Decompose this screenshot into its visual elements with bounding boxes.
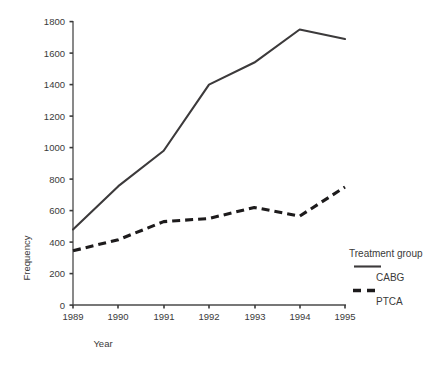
legend-title: Treatment group xyxy=(349,248,423,259)
y-tick-label-1400: 1400 xyxy=(44,79,65,90)
x-tick-label-1989: 1989 xyxy=(62,311,83,322)
y-axis-title: Frequency xyxy=(21,235,32,280)
x-tick-label-1993: 1993 xyxy=(244,311,265,322)
y-tick-label-1200: 1200 xyxy=(44,111,65,122)
x-tick-label-1994: 1994 xyxy=(289,311,310,322)
x-tick-label-1992: 1992 xyxy=(198,311,219,322)
y-tick-label-1000: 1000 xyxy=(44,142,65,153)
y-tick-label-0: 0 xyxy=(60,300,65,311)
x-axis-title: Year xyxy=(93,338,112,349)
y-tick-label-200: 200 xyxy=(49,268,65,279)
legend-label-ptca: PTCA xyxy=(376,296,403,307)
y-tick-label-1800: 1800 xyxy=(44,16,65,27)
x-tick-label-1991: 1991 xyxy=(153,311,174,322)
chart-figure: 1800 1600 1400 1200 1000 800 600 400 200… xyxy=(0,0,447,369)
y-tick-label-1600: 1600 xyxy=(44,48,65,59)
series-line-ptca xyxy=(73,187,345,251)
y-tick-label-600: 600 xyxy=(49,205,65,216)
series-line-cabg xyxy=(73,29,345,229)
y-tick-label-400: 400 xyxy=(49,237,65,248)
x-tick-label-1990: 1990 xyxy=(107,311,128,322)
line-chart-canvas: 1800 1600 1400 1200 1000 800 600 400 200… xyxy=(0,0,447,369)
x-tick-label-1995: 1995 xyxy=(334,311,355,322)
legend-label-cabg: CABG xyxy=(376,272,405,283)
y-tick-label-800: 800 xyxy=(49,174,65,185)
